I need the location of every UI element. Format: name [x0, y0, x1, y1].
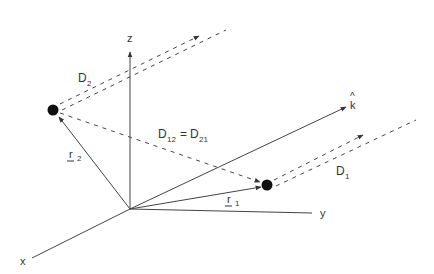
d12-label: D 12 = D 21: [158, 127, 208, 144]
x-axis-label: x: [20, 255, 26, 267]
svg-text:D: D: [190, 127, 199, 141]
d1-label: D 1: [336, 164, 350, 181]
svg-text:1: 1: [235, 199, 240, 208]
z-axis-label: z: [127, 32, 133, 44]
d12-separation-line: [60, 113, 260, 182]
svg-text:=: =: [180, 127, 187, 141]
y-axis: [130, 209, 312, 213]
r1-label: r 1: [225, 193, 240, 208]
svg-text:2: 2: [77, 154, 82, 163]
svg-text:r: r: [227, 193, 231, 205]
k-hat-vector: [130, 107, 346, 209]
r2-label: r 2: [67, 148, 82, 163]
r1-vector: [130, 187, 261, 209]
svg-text:D: D: [158, 127, 167, 141]
d1-dashed-line-upper: [274, 135, 363, 180]
diagram-canvas: z y x ^ k r 2 r 1 D 12 = D 21 D 2 D 1: [0, 0, 434, 274]
svg-text:21: 21: [199, 135, 208, 144]
r2-vector: [59, 117, 130, 209]
particle-1: [262, 180, 273, 191]
k-hat-label: k: [350, 99, 356, 111]
d2-dashed-line-lower: [62, 30, 226, 110]
svg-text:12: 12: [167, 135, 176, 144]
d2-label: D 2: [78, 71, 92, 88]
svg-text:D: D: [78, 71, 87, 85]
y-axis-label: y: [320, 207, 326, 219]
svg-text:r: r: [69, 148, 73, 160]
svg-text:D: D: [336, 164, 345, 178]
svg-text:1: 1: [345, 172, 350, 181]
particle-2: [48, 105, 59, 116]
x-axis: [32, 209, 130, 258]
svg-text:2: 2: [87, 79, 92, 88]
